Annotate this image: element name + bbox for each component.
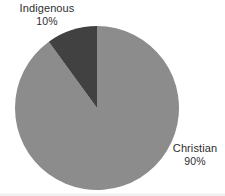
slice-label-christian-name: Christian [173,142,217,154]
slice-label-indigenous-percent: 10% [16,15,78,28]
slice-label-christian: Christian 90% [168,142,222,167]
pie-chart: Indigenous 10% Christian 90% [0,0,225,196]
slice-label-indigenous-name: Indigenous [20,2,75,14]
scan-edge-artifact [0,193,225,196]
slice-label-christian-percent: 90% [168,155,222,168]
slice-label-indigenous: Indigenous 10% [16,2,78,27]
